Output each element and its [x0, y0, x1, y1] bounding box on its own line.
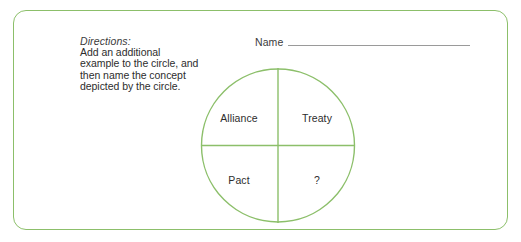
directions-block: Directions: Add an additional example to… — [80, 35, 202, 92]
quadrant-label-bottom-left: Pact — [228, 174, 249, 186]
directions-body-text: Add an additional example to the circle,… — [80, 47, 202, 92]
quadrant-label-top-right: Treaty — [302, 112, 332, 124]
name-write-in-line[interactable] — [288, 45, 470, 46]
worksheet-page: Directions: Add an additional example to… — [0, 0, 521, 242]
circle-diagram-svg — [200, 67, 356, 224]
name-label: Name — [255, 36, 283, 48]
quadrant-label-top-left: Alliance — [220, 112, 258, 124]
name-field: Name — [255, 36, 470, 48]
worksheet-border-frame: Directions: Add an additional example to… — [13, 10, 508, 230]
quadrant-label-bottom-right[interactable]: ? — [314, 174, 320, 186]
quartered-circle-diagram: Alliance Treaty Pact ? — [200, 67, 356, 224]
